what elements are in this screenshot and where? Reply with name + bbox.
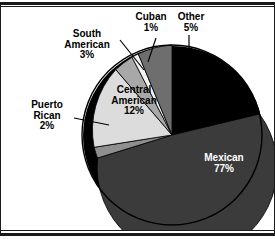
pie-label-mexican-name: Mexican xyxy=(204,152,243,163)
frame-bottom-border xyxy=(0,233,275,236)
frame-top-border xyxy=(0,2,275,5)
pie-label-puerto-rican-percent: 2% xyxy=(20,121,74,132)
pie-label-cuban: Cuban 1% xyxy=(128,12,174,33)
pie-label-other: Other 5% xyxy=(170,12,212,33)
pie-label-mexican-percent: 77% xyxy=(196,164,252,175)
pie-label-south-american-percent: 3% xyxy=(52,50,122,61)
pie-label-central-american-line1: Central xyxy=(117,84,151,95)
pie-label-puerto-rican: Puerto Rican 2% xyxy=(20,100,74,132)
pie-label-central-american: Central American 12% xyxy=(98,85,170,117)
pie-label-south-american-line1: South xyxy=(73,28,101,39)
pie-label-cuban-name: Cuban xyxy=(135,11,166,22)
frame-bottom-border-thin xyxy=(0,230,275,231)
pie-label-mexican: Mexican 77% xyxy=(196,153,252,174)
pie-label-central-american-percent: 12% xyxy=(98,106,170,117)
pie-label-other-percent: 5% xyxy=(170,23,212,34)
pie-label-south-american: South American 3% xyxy=(52,29,122,61)
frame-right-border xyxy=(274,2,275,236)
pie-label-cuban-percent: 1% xyxy=(128,23,174,34)
chart-figure-frame: Cuban 1% Other 5% South American 3% Cent… xyxy=(0,0,275,239)
pie-label-other-name: Other xyxy=(178,11,205,22)
pie-label-puerto-rican-line1: Puerto xyxy=(31,99,63,110)
